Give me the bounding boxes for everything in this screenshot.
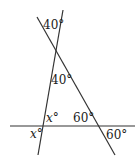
- right-inner-angle-label: 60°: [73, 111, 94, 125]
- x-upper-label: x°: [46, 111, 59, 125]
- x-upper-deg: °: [53, 111, 59, 125]
- x-lower-deg: °: [37, 127, 43, 141]
- top-angle-label: 40°: [43, 18, 64, 32]
- right-outer-angle-label: 60°: [106, 128, 127, 142]
- x-lower-label: x°: [30, 127, 43, 141]
- middle-angle-label: 40°: [51, 73, 72, 87]
- line-b: [37, 17, 115, 155]
- angle-diagram: 40° 40° x° x° 60° 60°: [0, 0, 139, 164]
